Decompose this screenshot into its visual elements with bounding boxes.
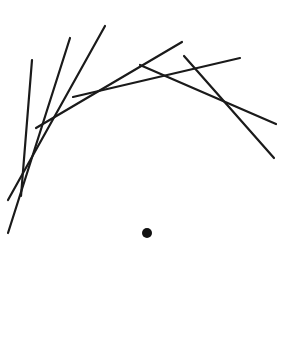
line-6 <box>140 65 276 124</box>
line-4 <box>36 42 182 128</box>
center-dot <box>142 228 152 238</box>
line-figure <box>0 0 296 346</box>
line-3 <box>8 26 105 200</box>
line-group <box>8 26 276 233</box>
line-7 <box>184 56 274 158</box>
line-2 <box>8 38 70 233</box>
